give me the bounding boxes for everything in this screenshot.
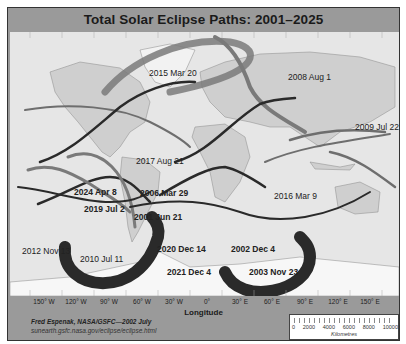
eclipse-label-2012-nov-13: 2012 Nov 13: [22, 246, 70, 256]
scale-ticks: [294, 318, 394, 323]
eclipse-label-2021-dec-4: 2021 Dec 4: [167, 267, 211, 277]
scale-value: 6000: [343, 324, 355, 330]
eclipse-label-2019-jul-2: 2019 Jul 2: [84, 204, 125, 214]
credit-url: sunearth.gsfc.nasa.gov/eclipse/eclipse.h…: [31, 327, 156, 334]
map-graphic: [10, 32, 399, 296]
eclipse-label-2015-mar-20: 2015 Mar 20: [149, 68, 197, 78]
eclipse-label-2016-mar-9: 2016 Mar 9: [274, 191, 317, 201]
world-map: 2015 Mar 20 2008 Aug 1 2017 Aug 21 2009 …: [10, 32, 399, 296]
scale-unit: Kilometres: [290, 331, 398, 337]
tick-label: 60° E: [264, 298, 280, 305]
scale-value: 0: [292, 324, 295, 330]
eclipse-map-figure: Total Solar Eclipse Paths: 2001–2025: [7, 7, 400, 341]
tick-label: 120° W: [65, 298, 86, 305]
eclipse-label-2003-nov-23: 2003 Nov 23: [249, 267, 298, 277]
eclipse-label-2002-dec-4: 2002 Dec 4: [231, 244, 275, 254]
tick-label: 120° E: [328, 298, 348, 305]
tick-label: 90° E: [297, 298, 313, 305]
scale-value: 4000: [323, 324, 335, 330]
eclipse-label-2010-jul-11: 2010 Jul 11: [80, 254, 123, 264]
scale-value: 2000: [303, 324, 315, 330]
eclipse-label-2024-apr-8: 2024 Apr 8: [74, 187, 117, 197]
eclipse-label-2020-dec-14: 2020 Dec 14: [157, 244, 206, 254]
scale-value: 8000: [363, 324, 375, 330]
eclipse-label-2017-aug-21: 2017 Aug 21: [136, 156, 184, 166]
eclipse-label-2009-jul-22: 2009 Jul 22: [355, 122, 399, 132]
scale-value: 10000: [383, 324, 398, 330]
tick-label: 150° E: [360, 298, 380, 305]
eclipse-label-2001-jun-21: 2001 Jun 21: [134, 212, 182, 222]
tick-label: 30° W: [165, 298, 183, 305]
tick-label: 0°: [204, 298, 210, 305]
tick-label: 60° W: [133, 298, 151, 305]
longitude-axis: 150° W 120° W 90° W 60° W 30° W 0° 30° E…: [8, 296, 399, 342]
credit-author: Fred Espenak, NASA/GSFC—2002 July: [31, 318, 151, 325]
tick-label: 90° W: [100, 298, 118, 305]
distance-scale-bar: 0 2000 4000 6000 8000 10000 Kilometres: [289, 314, 399, 340]
tick-label: 30° E: [232, 298, 248, 305]
eclipse-label-2006-mar-29: 2006 Mar 29: [140, 188, 188, 198]
scale-values: 0 2000 4000 6000 8000 10000: [292, 324, 398, 330]
map-title: Total Solar Eclipse Paths: 2001–2025: [8, 8, 399, 32]
eclipse-label-2008-aug-1: 2008 Aug 1: [288, 72, 331, 82]
tick-label: 150° W: [33, 298, 54, 305]
